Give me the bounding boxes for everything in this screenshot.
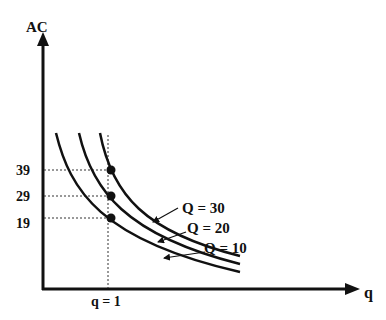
point-q10 (107, 214, 116, 223)
average-cost-chart: AC q q = 1 39 29 19 Q = 30 Q = 20 Q = 10 (0, 0, 386, 320)
point-q30 (107, 166, 116, 175)
label-q10: Q = 10 (204, 240, 247, 256)
label-q30: Q = 30 (182, 200, 225, 216)
x-axis-arrow-icon (345, 283, 360, 295)
y-axis-label: AC (26, 19, 48, 35)
x-axis-label: q (364, 284, 373, 302)
pointer-q30 (153, 208, 178, 222)
x-tick-q1: q = 1 (91, 294, 121, 309)
y-tick-39: 39 (16, 163, 30, 178)
label-q20: Q = 20 (187, 220, 230, 236)
y-tick-19: 19 (16, 216, 30, 231)
y-tick-29: 29 (16, 189, 30, 204)
point-q20 (107, 192, 116, 201)
